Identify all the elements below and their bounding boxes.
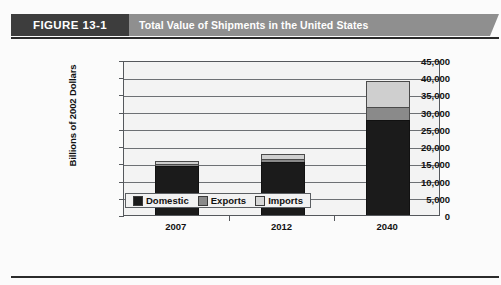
legend-item-imports[interactable]: Imports <box>255 195 303 206</box>
x-axis-tick-mark <box>334 216 335 221</box>
chart-legend: DomesticExportsImports <box>125 193 311 208</box>
y-axis-tick-mark <box>119 199 124 200</box>
y-axis-tick-mark <box>119 147 124 148</box>
y-axis-tick-label: 35,000 <box>353 90 450 101</box>
figure-container: FIGURE 13-1 Total Value of Shipments in … <box>0 0 501 285</box>
figure-title-bar: Total Value of Shipments in the United S… <box>129 14 490 36</box>
legend-label: Exports <box>211 195 246 206</box>
y-axis-tick-mark <box>119 61 124 62</box>
banner-tip-decoration <box>490 14 499 36</box>
y-axis-tick-label: 25,000 <box>353 124 450 135</box>
y-axis-tick-mark <box>119 216 124 217</box>
legend-label: Domestic <box>146 195 189 206</box>
y-axis-tick-label: 30,000 <box>353 107 450 118</box>
figure-header-banner: FIGURE 13-1 Total Value of Shipments in … <box>11 14 490 36</box>
chart: Billions of 2002 Dollars 45,00040,00035,… <box>18 48 450 270</box>
legend-swatch-imports-icon <box>255 196 265 206</box>
y-axis-tick-label: 45,000 <box>353 56 450 67</box>
x-axis-label-2040: 2040 <box>377 221 398 232</box>
y-axis-tick-mark <box>119 113 124 114</box>
y-axis-tick-mark <box>119 164 124 165</box>
legend-label: Imports <box>268 195 303 206</box>
y-axis-tick-label: 15,000 <box>353 159 450 170</box>
figure-title: Total Value of Shipments in the United S… <box>139 19 369 31</box>
y-axis-tick-label: 40,000 <box>353 73 450 84</box>
y-axis-tick-label: 5,000 <box>353 193 450 204</box>
header-underline <box>11 37 499 39</box>
legend-swatch-exports-icon <box>198 196 208 206</box>
x-axis-tick-mark <box>229 216 230 221</box>
figure-number-tag: FIGURE 13-1 <box>11 14 129 36</box>
y-axis-tick-mark <box>119 78 124 79</box>
x-axis-label-2012: 2012 <box>271 221 292 232</box>
x-axis-label-2007: 2007 <box>165 221 186 232</box>
legend-item-domestic[interactable]: Domestic <box>133 195 189 206</box>
y-axis-title: Billions of 2002 Dollars <box>67 56 78 176</box>
y-axis-tick-label: 0 <box>353 211 450 222</box>
legend-item-exports[interactable]: Exports <box>198 195 246 206</box>
y-axis-tick-label: 20,000 <box>353 142 450 153</box>
y-axis-tick-mark <box>119 130 124 131</box>
figure-bottom-rule <box>11 276 499 278</box>
legend-swatch-domestic-icon <box>133 196 143 206</box>
y-axis-tick-mark <box>119 95 124 96</box>
y-axis-tick-label: 10,000 <box>353 176 450 187</box>
y-axis-tick-mark <box>119 182 124 183</box>
